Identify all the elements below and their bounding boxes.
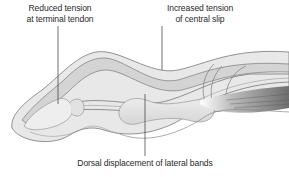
label-line: at terminal tendon <box>20 14 100 25</box>
label-line: Reduced tension <box>20 3 100 14</box>
label-line: Dorsal displacement of lateral bands <box>50 158 240 169</box>
distal-joint <box>70 99 84 116</box>
label-central-slip: Increased tension of central slip <box>150 3 250 24</box>
label-terminal-tendon: Reduced tension at terminal tendon <box>20 3 100 24</box>
label-line: of central slip <box>150 14 250 25</box>
label-line: Increased tension <box>150 3 250 14</box>
label-lateral-bands: Dorsal displacement of lateral bands <box>50 158 240 169</box>
finger-anatomy-illustration <box>0 0 289 177</box>
